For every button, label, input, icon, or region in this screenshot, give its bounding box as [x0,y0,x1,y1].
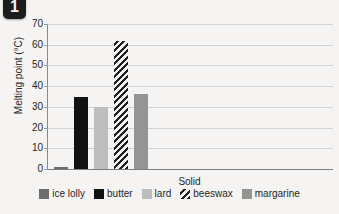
legend-label: ice lolly [52,188,85,199]
y-tick-10: 10 [19,142,43,153]
chart-legend: ice lollybutterlardbeeswaxmargarine [0,188,339,199]
bar-ice-lolly [54,167,68,169]
y-tick-60: 60 [19,39,43,50]
y-tick-50: 50 [19,59,43,70]
bar-lard [94,107,108,169]
legend-swatch-icon [94,189,104,199]
legend-item-butter: butter [94,188,133,199]
y-tick-30: 30 [19,101,43,112]
legend-swatch-icon [142,189,152,199]
legend-label: margarine [255,188,300,199]
bar-butter [74,97,88,170]
plot-area [47,24,333,170]
y-tick-0: 0 [19,163,43,174]
x-axis-title: Solid [47,176,332,187]
legend-swatch-icon [242,189,252,199]
bar-margarine [134,94,148,169]
y-tick-70: 70 [19,18,43,29]
bar-chart: Melting point (°C) 70 60 50 40 30 20 10 … [0,18,339,214]
legend-label: lard [155,188,172,199]
chart-screenshot: 1 Melting point (°C) 70 60 50 40 30 20 1… [0,0,339,214]
bar-group [48,24,333,169]
y-axis-tick-labels: 70 60 50 40 30 20 10 0 [19,18,43,168]
legend-swatch-icon [180,189,190,199]
legend-item-beeswax: beeswax [180,188,232,199]
legend-label: butter [107,188,133,199]
legend-item-margarine: margarine [242,188,300,199]
y-tick-40: 40 [19,80,43,91]
legend-swatch-icon [39,189,49,199]
legend-item-lard: lard [142,188,172,199]
bar-beeswax [114,41,128,169]
y-tick-20: 20 [19,122,43,133]
legend-label: beeswax [193,188,232,199]
legend-item-ice-lolly: ice lolly [39,188,85,199]
